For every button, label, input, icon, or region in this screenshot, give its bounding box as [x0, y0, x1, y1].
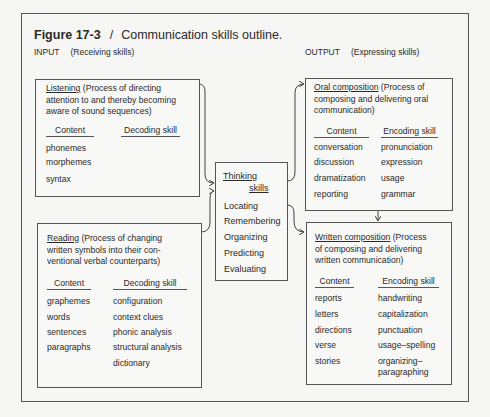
reading-content-item: paragraphs: [47, 342, 90, 352]
oral-desc-3: communication): [314, 105, 375, 115]
written-desc-1: (Process: [390, 232, 426, 242]
reading-skill-item: configuration: [113, 296, 162, 306]
written-heading: Written composition: [315, 232, 390, 242]
reading-content-item: graphemes: [47, 296, 90, 306]
written-desc-2: of composing and delivering: [315, 244, 422, 254]
thinking-item: Locating: [224, 201, 258, 211]
thinking-heading-1: Thinking: [223, 171, 257, 181]
written-content-item: verse: [315, 340, 336, 350]
listening-box: Listening (Process of directing attentio…: [35, 79, 200, 197]
oral-content-item: reporting: [314, 189, 348, 199]
oral-description: Oral composition (Process of composing a…: [314, 82, 428, 117]
oral-composition-box: Oral composition (Process of composing a…: [305, 78, 453, 211]
written-skill-item: punctuation: [378, 325, 422, 335]
reading-description: Reading (Process of changing written sym…: [47, 233, 162, 268]
arrow-thinking-to-written: [287, 205, 304, 232]
reading-col-content: Content: [47, 278, 91, 290]
written-desc-3: written communication): [315, 255, 403, 265]
thinking-box: Thinking skills Locating Remembering Org…: [215, 162, 288, 281]
oral-content-item: conversation: [314, 142, 363, 152]
reading-content-item: words: [47, 312, 70, 322]
written-skill-item: handwriting: [378, 293, 422, 303]
thinking-heading-2: skills: [249, 183, 269, 193]
arrow-reading-to-thinking: [201, 191, 214, 232]
listening-desc-3: aware of sound sequences): [46, 106, 152, 116]
oral-skill-item: usage: [381, 173, 404, 183]
oral-heading: Oral composition: [314, 82, 378, 92]
listening-content-item: phonemes: [46, 143, 86, 153]
oral-skill-item: expression: [381, 157, 423, 167]
oral-content-item: dramatization: [314, 173, 366, 183]
thinking-item: Predicting: [224, 248, 264, 258]
oral-skill-item: pronunciation: [381, 142, 433, 152]
listening-heading: Listening: [46, 83, 80, 93]
oral-col-skill: Encoding skill: [381, 126, 438, 138]
reading-box: Reading (Process of changing written sym…: [37, 223, 202, 388]
written-skill-item: paragraphing: [378, 367, 429, 377]
reading-desc-2: written symbols into their con-: [47, 245, 161, 255]
reading-heading: Reading: [47, 233, 79, 243]
oral-desc-2: composing and delivering oral: [314, 94, 428, 104]
arrow-thinking-to-oral: [287, 84, 304, 181]
listening-content-item: syntax: [46, 174, 71, 184]
written-description: Written composition (Process of composin…: [315, 232, 427, 267]
thinking-item: Evaluating: [224, 264, 266, 274]
oral-skill-item: grammar: [381, 189, 415, 199]
listening-desc-1: (Process of directing: [80, 83, 161, 93]
reading-skill-item: dictionary: [113, 358, 150, 368]
reading-skill-item: structural analysis: [113, 342, 182, 352]
thinking-item: Organizing: [224, 232, 268, 242]
oral-desc-1: (Process of: [378, 82, 424, 92]
listening-description: Listening (Process of directing attentio…: [46, 83, 176, 118]
reading-col-skill: Decoding skill: [113, 278, 187, 290]
oral-content-item: discussion: [314, 157, 354, 167]
written-col-content: Content: [315, 276, 354, 288]
written-composition-box: Written composition (Process of composin…: [306, 222, 452, 385]
reading-skill-item: context clues: [113, 312, 163, 322]
reading-skill-item: phonic analysis: [113, 327, 172, 337]
written-skill-item: usage–spelling: [378, 340, 435, 350]
oral-col-content: Content: [314, 126, 369, 138]
arrow-listening-to-thinking: [199, 84, 214, 183]
thinking-item: Remembering: [224, 216, 281, 226]
written-content-item: reports: [315, 293, 342, 303]
reading-desc-3: ventional verbal counterparts): [47, 256, 160, 266]
written-skill-item: capitalization: [378, 309, 428, 319]
written-content-item: letters: [315, 309, 338, 319]
written-content-item: directions: [315, 325, 352, 335]
reading-desc-1: (Process of changing: [79, 233, 162, 243]
written-content-item: stories: [315, 356, 340, 366]
listening-col-content: Content: [46, 125, 94, 137]
reading-content-item: sentences: [47, 327, 86, 337]
listening-content-item: morphemes: [46, 157, 91, 167]
written-col-skill: Encoding skill: [378, 276, 439, 288]
listening-desc-2: attention to and thereby becoming: [46, 95, 176, 105]
written-skill-item: organizing–: [378, 356, 422, 366]
listening-col-skill: Decoding skill: [121, 125, 180, 137]
